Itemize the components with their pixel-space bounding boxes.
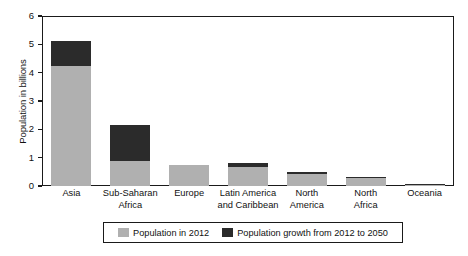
bar-segment-growth-2012-2050 (228, 163, 268, 167)
x-axis-label-line: Oceania (386, 188, 463, 200)
legend-swatch (118, 228, 129, 237)
legend-swatch (222, 228, 233, 237)
bar-segment-population-2012 (405, 185, 445, 186)
bar-segment-growth-2012-2050 (405, 184, 445, 185)
bar-segment-growth-2012-2050 (346, 177, 386, 179)
y-axis-tick-label: 2 (29, 122, 34, 135)
legend-item: Population in 2012 (118, 228, 209, 238)
x-axis-label: Oceania (386, 188, 463, 200)
bar-group (287, 172, 327, 186)
y-axis-tick-label: 6 (29, 9, 34, 22)
bar-segment-population-2012 (287, 174, 327, 186)
chart-legend: Population in 2012Population growth from… (103, 222, 403, 243)
bar-segment-population-2012 (169, 165, 209, 186)
y-axis-tick-label: 5 (29, 37, 34, 50)
y-axis-tick-label: 3 (29, 94, 34, 107)
bar-group (110, 125, 150, 186)
bar-group (405, 184, 445, 186)
bar-segment-population-2012 (228, 167, 268, 186)
bar-group (228, 163, 268, 186)
legend-label: Population growth from 2012 to 2050 (237, 228, 388, 238)
bar-group (346, 177, 386, 186)
y-axis-title: Population in billions (17, 17, 28, 187)
bar-segment-population-2012 (51, 66, 91, 186)
population-stacked-bar-chart: Population in billions 0123456 AsiaSub-S… (0, 0, 468, 256)
y-axis-tick-label: 1 (29, 151, 34, 164)
bar-group (169, 165, 209, 186)
legend-label: Population in 2012 (133, 228, 209, 238)
bar-segment-growth-2012-2050 (110, 125, 150, 160)
bar-segment-growth-2012-2050 (287, 172, 327, 175)
y-axis-tick-label: 4 (29, 66, 34, 79)
x-axis-labels: AsiaSub-SaharanAfricaEuropeLatin America… (42, 188, 454, 220)
bar-segment-population-2012 (346, 178, 386, 186)
legend-item: Population growth from 2012 to 2050 (222, 228, 388, 238)
bar-segment-population-2012 (110, 161, 150, 187)
bar-segment-growth-2012-2050 (51, 41, 91, 66)
x-axis-label-line: Africa (92, 200, 169, 212)
bar-group (51, 41, 91, 186)
x-axis-label-line: Africa (327, 200, 404, 212)
bars-layer (42, 16, 454, 186)
